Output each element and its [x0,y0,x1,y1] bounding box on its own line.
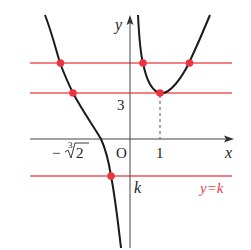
y-axis-label: y [113,16,123,34]
intersection-point [139,59,147,67]
intersection-point [107,172,115,180]
k-label: k [134,179,142,196]
svg-text:−: − [52,145,60,161]
svg-text:2: 2 [76,145,84,161]
intersection-point [186,59,194,67]
intersection-point [69,89,77,97]
curve-left-branch [45,15,121,248]
graph-canvas: y x O 3 1 − 3 2 k y=k [0,0,251,250]
intersection-point [57,59,65,67]
y-tick-3: 3 [117,97,125,113]
minimum-point [156,89,164,97]
x-tick-1: 1 [156,145,164,161]
x-axis-label: x [224,144,232,161]
line-label-y-equals-k: y=k [198,180,224,196]
origin-label: O [116,145,127,161]
x-tick-neg-cuberoot-2: − 3 2 [52,140,89,161]
curve-right-branch [138,15,210,93]
svg-text:3: 3 [68,140,73,150]
